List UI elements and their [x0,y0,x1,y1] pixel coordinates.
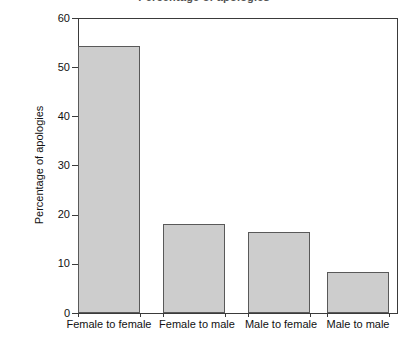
x-axis-category-labels: Female to female Female to male Male to … [0,318,408,338]
y-tick-mark-60 [72,18,78,19]
y-tick-label-10: 10 [48,258,70,269]
y-tick-label-50: 50 [48,62,70,73]
x-tick-mark-3 [225,313,226,317]
x-label-female-to-male: Female to male [156,318,238,330]
plot-area [78,18,398,313]
y-tick-label-60: 60 [48,13,70,24]
x-tick-mark-6 [327,313,328,317]
bar-male-to-male [327,272,389,313]
x-tick-mark-2 [163,313,164,317]
x-label-female-to-female: Female to female [64,318,154,330]
bar-male-to-female [248,232,310,313]
bar-female-to-male [163,224,225,313]
y-tick-label-20: 20 [48,209,70,220]
y-axis-tick-labels: 60 50 40 30 20 10 0 [48,18,70,313]
x-tick-mark-4 [248,313,249,317]
x-axis-line [78,313,398,314]
x-tick-mark-5 [310,313,311,317]
chart-title-cropped: Percentage of apologies [0,0,408,3]
x-tick-mark-7 [389,313,390,317]
y-axis-title: Percentage of apologies [33,55,45,275]
plot-frame-right [397,18,398,313]
y-tick-label-40: 40 [48,111,70,122]
x-tick-mark-1 [140,313,141,317]
bar-female-to-female [78,46,140,313]
x-tick-mark-0 [78,313,79,317]
bar-chart-figure: Percentage of apologies Percentage of ap… [0,0,408,353]
x-label-male-to-female: Male to female [243,318,319,330]
plot-frame-top [78,18,398,19]
x-label-male-to-male: Male to male [324,318,392,330]
y-tick-label-30: 30 [48,160,70,171]
